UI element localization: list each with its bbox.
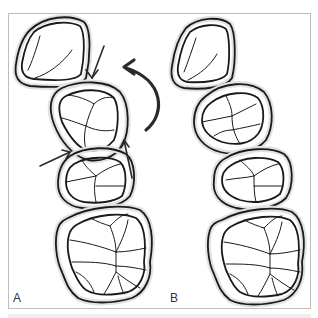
- bottom-band: [8, 314, 311, 318]
- figure-frame: [9, 14, 311, 309]
- dental-diagram: A: [0, 0, 318, 318]
- panel-label-b: B: [170, 291, 178, 305]
- panel-label-a: A: [13, 291, 21, 305]
